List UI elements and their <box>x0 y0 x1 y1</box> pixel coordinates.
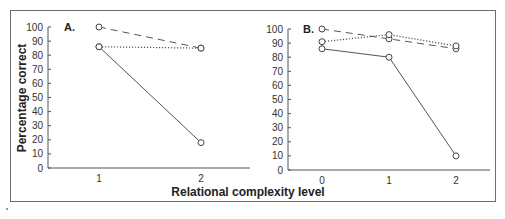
y-tick-label: 0 <box>277 165 283 176</box>
panel-label: A. <box>64 21 75 33</box>
y-tick-label: 90 <box>272 38 284 49</box>
y-tick-label: 20 <box>32 134 44 145</box>
y-tick-label: 60 <box>272 80 284 91</box>
panel-b: 0102030405060708090100012B. <box>266 23 490 186</box>
y-tick-label: 80 <box>32 50 44 61</box>
panel-a: 010203040506070809010012A. <box>26 21 250 184</box>
x-tick-label: 1 <box>386 175 392 186</box>
x-tick-label: 2 <box>453 175 459 186</box>
data-point-marker <box>319 46 325 52</box>
chart-canvas: Percentage correct Relational complexity… <box>0 0 505 219</box>
y-tick-label: 20 <box>272 136 284 147</box>
y-tick-label: 90 <box>32 36 44 47</box>
data-point-marker <box>319 39 325 45</box>
y-tick-label: 0 <box>37 163 43 174</box>
y-tick-label: 30 <box>272 122 284 133</box>
y-tick-label: 70 <box>32 64 44 75</box>
y-tick-label: 50 <box>32 92 44 103</box>
data-point-marker <box>96 24 102 30</box>
y-tick-label: 60 <box>32 78 44 89</box>
y-tick-label: 40 <box>272 108 284 119</box>
data-point-marker <box>198 45 204 51</box>
series-line-dashed <box>99 27 201 48</box>
y-tick-label: 100 <box>266 24 283 35</box>
y-tick-label: 70 <box>272 66 284 77</box>
y-tick-label: 80 <box>272 52 284 63</box>
y-tick-label: 30 <box>32 120 44 131</box>
data-point-marker <box>453 43 459 49</box>
x-tick-label: 1 <box>96 173 102 184</box>
series-line-dotted <box>99 47 201 48</box>
data-point-marker <box>96 44 102 50</box>
series-line-solid <box>99 47 201 143</box>
x-tick-label: 0 <box>319 175 325 186</box>
data-point-marker <box>198 140 204 146</box>
data-point-marker <box>319 26 325 32</box>
data-point-marker <box>453 153 459 159</box>
y-tick-label: 40 <box>32 106 44 117</box>
y-axis-title: Percentage correct <box>15 44 29 153</box>
y-tick-label: 100 <box>26 22 43 33</box>
panel-label: B. <box>303 23 314 35</box>
x-tick-label: 2 <box>198 173 204 184</box>
data-point-marker <box>386 32 392 38</box>
x-axis-title: Relational complexity level <box>171 185 324 199</box>
y-tick-label: 50 <box>272 94 284 105</box>
y-tick-label: 10 <box>32 148 44 159</box>
series-line-solid <box>322 49 456 156</box>
data-point-marker <box>386 54 392 60</box>
y-tick-label: 10 <box>272 150 284 161</box>
